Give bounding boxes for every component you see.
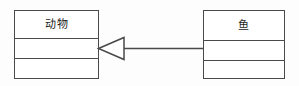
generalization-fish-animal[interactable]: [99, 38, 204, 60]
relationship-layer: [0, 0, 299, 86]
uml-diagram-canvas: 动物 鱼: [0, 0, 299, 86]
hollow-triangle-arrowhead-icon: [99, 38, 125, 60]
